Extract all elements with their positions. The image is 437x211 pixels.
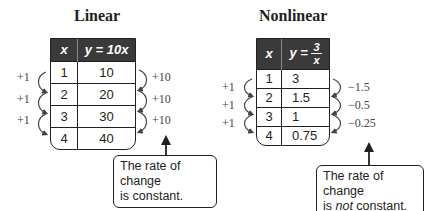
callout-text: is [323,199,336,211]
y-change-label: +10 [152,70,171,85]
linear-callout: The rate of change is constant. [113,155,217,208]
callout-line: is constant. [120,189,210,204]
callout-emphasis: not [336,199,353,211]
callout-line: The rate of change [323,169,417,199]
x-change-label: +1 [222,116,235,131]
callout-text: constant. [353,199,407,211]
y-change-label: −0.5 [348,98,370,113]
x-change-label: +1 [17,70,30,85]
y-change-label: +10 [152,92,171,107]
x-change-label: +1 [222,98,235,113]
x-change-label: +1 [17,92,30,107]
y-change-label: +10 [152,113,171,128]
callout-line: The rate of change [120,159,210,189]
x-change-label: +1 [222,80,235,95]
x-change-label: +1 [17,113,30,128]
y-change-label: −0.25 [348,116,376,131]
y-change-label: −1.5 [348,80,370,95]
nonlinear-callout: The rate of change is not constant. [316,165,424,211]
callout-line: is not constant. [323,199,417,211]
